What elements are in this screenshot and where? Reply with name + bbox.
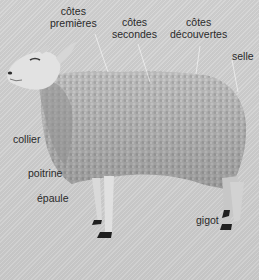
- label-cotes-premieres: côtes premières: [50, 5, 97, 29]
- label-collier: collier: [13, 133, 40, 145]
- label-cotes-secondes: côtes secondes: [112, 16, 157, 40]
- label-poitrine: poitrine: [28, 167, 62, 179]
- label-gigot: gigot: [196, 214, 219, 226]
- sheep-cuts-diagram: côtes premières côtes secondes côtes déc…: [0, 0, 259, 280]
- label-selle: selle: [232, 50, 254, 62]
- label-epaule: épaule: [37, 192, 69, 204]
- label-cotes-decouvertes: côtes découvertes: [170, 16, 227, 40]
